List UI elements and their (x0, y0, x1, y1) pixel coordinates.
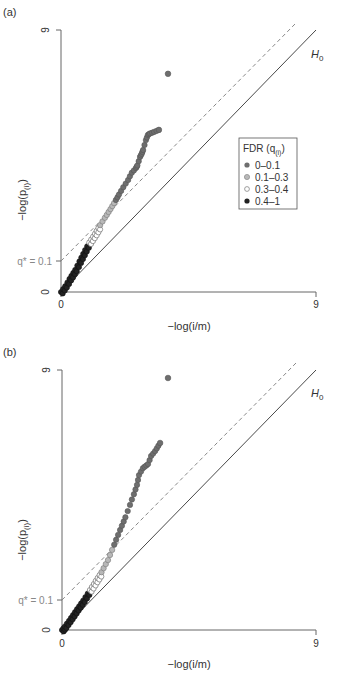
data-point (109, 547, 114, 552)
q-threshold-label: q* = 0.1 (18, 595, 53, 606)
data-point (135, 477, 140, 482)
fdr-threshold-line (62, 363, 296, 600)
panel-a-label: (a) (3, 6, 16, 18)
data-point (105, 557, 110, 562)
y-tick-label-9: 9 (41, 367, 52, 373)
legend-entry-1: 0.1–0.3 (255, 172, 289, 183)
data-point (140, 147, 145, 152)
x-tick-label-0: 0 (58, 299, 64, 310)
h0-reference-line (62, 370, 316, 630)
legend-dot-1 (244, 174, 249, 179)
legend-dot-2 (245, 187, 250, 192)
data-point (125, 508, 130, 513)
y-tick-label-0: 0 (41, 627, 52, 633)
data-point (107, 552, 112, 557)
x-axis-label: −log(i/m) (167, 320, 210, 332)
y-tick-label-9: 9 (40, 27, 51, 33)
data-points-a (58, 71, 170, 296)
data-point (156, 127, 162, 133)
legend-entry-2: 0.3–0.4 (255, 184, 289, 195)
panel-a: (a) 9 0 0 9 q* = 0.1 −log(i/m) −log(p(i)… (3, 6, 324, 332)
legend-entry-3: 0.4–1 (255, 196, 280, 207)
legend-dot-0 (244, 162, 249, 167)
q-threshold-label: q* = 0.1 (17, 256, 52, 267)
legend: FDR (q(i)) 0–0.1 0.1–0.3 0.3–0.4 0.4–1 (239, 138, 297, 209)
x-tick-label-9: 9 (313, 638, 319, 649)
x-tick-label-9: 9 (313, 299, 319, 310)
data-point (157, 440, 163, 446)
h0-label: H0 (311, 48, 324, 63)
data-point (142, 142, 147, 147)
panel-b-label: (b) (3, 346, 16, 358)
data-point (165, 375, 171, 381)
data-point (112, 542, 117, 547)
x-axis-label: −log(i/m) (167, 658, 210, 670)
data-point (127, 502, 132, 507)
panel-b: (b) 9 0 0 9 q* = 0.1 −log(i/m) −log(p(i)… (3, 346, 324, 670)
data-points-b (59, 375, 170, 634)
data-point (165, 71, 171, 77)
h0-label: H0 (311, 387, 324, 402)
data-point (113, 537, 118, 542)
fdr-qq-figure: (a) 9 0 0 9 q* = 0.1 −log(i/m) −log(p(i)… (0, 0, 337, 686)
y-tick-label-0: 0 (40, 289, 51, 295)
y-axis-label: −log(p(i)) (16, 179, 31, 221)
legend-dot-3 (244, 198, 249, 203)
data-point (129, 497, 134, 502)
x-tick-label-0: 0 (59, 638, 65, 649)
legend-entry-0: 0–0.1 (255, 160, 280, 171)
data-point (123, 515, 128, 520)
data-point (115, 532, 120, 537)
y-axis-label: −log(p(i)) (16, 519, 31, 561)
data-point (134, 482, 139, 487)
